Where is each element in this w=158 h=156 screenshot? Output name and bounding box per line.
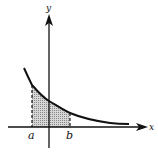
a-label: a — [28, 129, 35, 142]
b-label: b — [66, 129, 73, 142]
x-axis-label: x — [149, 122, 154, 132]
area-under-curve-diagram: y x a b — [0, 0, 158, 156]
y-axis-label: y — [45, 3, 52, 13]
